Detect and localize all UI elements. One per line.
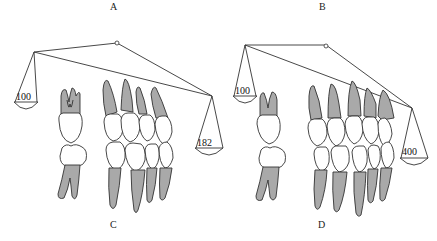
anterior-teeth-group bbox=[308, 81, 394, 216]
molar-tooth bbox=[256, 92, 286, 201]
balance-left: 100 182 bbox=[14, 41, 223, 213]
weight-label-left: 100 bbox=[16, 91, 31, 102]
beam-top-line bbox=[34, 43, 117, 52]
molar-tooth bbox=[58, 88, 87, 199]
beam-right-line bbox=[117, 43, 212, 96]
weight-pan-left: 100 bbox=[14, 52, 38, 109]
pivot-icon bbox=[115, 41, 119, 45]
weight-pan-right: 400 bbox=[400, 108, 428, 165]
weight-label-right: 400 bbox=[402, 146, 417, 157]
dental-balance-figure: A B C D .ln { stroke:#333; stroke-width:… bbox=[0, 0, 437, 241]
weight-pan-left: 100 bbox=[233, 45, 257, 103]
weight-label-left: 100 bbox=[235, 85, 250, 96]
pivot-icon bbox=[324, 44, 328, 48]
diagram-svg: .ln { stroke:#333; stroke-width:0.9; fil… bbox=[0, 0, 437, 241]
weight-label-right: 182 bbox=[197, 137, 212, 148]
balance-right: 100 400 bbox=[233, 44, 428, 216]
anterior-teeth-group bbox=[103, 79, 173, 213]
weight-pan-right: 182 bbox=[195, 96, 223, 155]
